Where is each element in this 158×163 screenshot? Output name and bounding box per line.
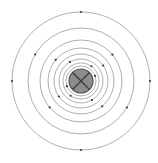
electron-dot	[48, 106, 50, 108]
electron-dot	[102, 64, 104, 66]
electron-dot	[149, 80, 151, 82]
electron-dot	[69, 61, 71, 63]
electron-dot	[91, 99, 93, 101]
electron-dot	[55, 59, 57, 61]
electron-dot	[111, 54, 113, 56]
electron-dot	[70, 95, 72, 97]
electron-dot	[11, 80, 13, 82]
electron-dot	[34, 53, 36, 55]
electron-dot	[94, 75, 96, 77]
bohr-atom-diagram	[0, 0, 158, 163]
electron-dot	[126, 106, 128, 108]
electron-dot	[80, 149, 82, 151]
electron-dot	[101, 105, 103, 107]
electron-dot	[80, 11, 82, 13]
nucleus	[69, 69, 93, 93]
electron-dot	[90, 65, 92, 67]
electron-dot	[66, 85, 68, 87]
electron-dot	[58, 95, 60, 97]
